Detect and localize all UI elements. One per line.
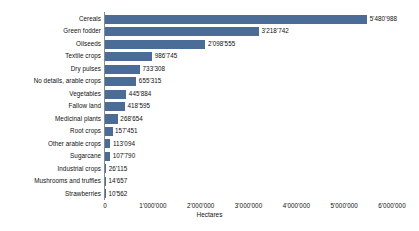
- bar-category-label: Green fodder: [0, 25, 101, 38]
- bar: [105, 102, 125, 111]
- bar-category-label: Other arable crops: [0, 138, 101, 151]
- bar: [105, 27, 259, 36]
- bar-category-label: Oilseeds: [0, 38, 101, 51]
- bar: [105, 139, 110, 148]
- bar-row: Other arable crops113'094: [0, 138, 419, 151]
- bar-fill: [105, 139, 110, 148]
- bar: [105, 127, 113, 136]
- bar-row: Vegetables445'884: [0, 88, 419, 101]
- bar-category-label: Industrial crops: [0, 163, 101, 176]
- bar: [105, 52, 152, 61]
- bar: [105, 177, 106, 186]
- bar-row: Mushrooms and truffles14'657: [0, 175, 419, 188]
- bar-fill: [105, 102, 125, 111]
- bar-row: Sugarcane107'790: [0, 150, 419, 163]
- bar-category-label: Medicinal plants: [0, 113, 101, 126]
- bar-fill: [105, 127, 113, 136]
- bar-row: Root crops157'451: [0, 125, 419, 138]
- bar-category-label: Dry pulses: [0, 63, 101, 76]
- bar-value-label: 113'094: [113, 138, 135, 151]
- bar-fill: [105, 90, 126, 99]
- bar-row: Green fodder3'218'742: [0, 25, 419, 38]
- bar-chart: Cereals5'480'988Green fodder3'218'742Oil…: [0, 0, 419, 231]
- bar-value-label: 107'790: [113, 150, 136, 163]
- bar-value-label: 445'884: [129, 88, 152, 101]
- bar-value-label: 157'451: [115, 125, 138, 138]
- bar-row: Textile crops986'745: [0, 50, 419, 63]
- bar-value-label: 26'115: [109, 163, 128, 176]
- bar: [105, 40, 205, 49]
- bar-fill: [105, 164, 106, 173]
- bar-category-label: Root crops: [0, 125, 101, 138]
- plot-area: Cereals5'480'988Green fodder3'218'742Oil…: [0, 0, 419, 231]
- bar-value-label: 418'595: [128, 100, 151, 113]
- bar-value-label: 5'480'988: [370, 13, 397, 26]
- bar-row: Dry pulses733'308: [0, 63, 419, 76]
- bar-category-label: Strawberries: [0, 188, 101, 201]
- bar-fill: [105, 65, 140, 74]
- bar-value-label: 2'098'555: [208, 38, 235, 51]
- bar-fill: [105, 15, 367, 24]
- bar-fill: [105, 27, 259, 36]
- bar-fill: [105, 77, 136, 86]
- bar-category-label: Mushrooms and truffles: [0, 175, 101, 188]
- bar-category-label: No details, arable crops: [0, 75, 101, 88]
- bar-category-label: Sugarcane: [0, 150, 101, 163]
- bar-fill: [105, 177, 106, 186]
- bar-fill: [105, 40, 205, 49]
- bar: [105, 77, 136, 86]
- bar-fill: [105, 152, 110, 161]
- bar-value-label: 10'562: [108, 188, 127, 201]
- bar: [105, 15, 367, 24]
- bar-fill: [105, 189, 106, 198]
- x-axis-title: Hectares: [0, 210, 419, 220]
- bar-category-label: Vegetables: [0, 88, 101, 101]
- bar-value-label: 14'657: [108, 175, 127, 188]
- bar: [105, 114, 118, 123]
- bar-row: Fallow land418'595: [0, 100, 419, 113]
- bar-row: Cereals5'480'988: [0, 13, 419, 26]
- bar-category-label: Fallow land: [0, 100, 101, 113]
- bar: [105, 189, 106, 198]
- bar-value-label: 3'218'742: [261, 25, 288, 38]
- bar-value-label: 268'654: [120, 113, 143, 126]
- bar: [105, 164, 106, 173]
- bar-value-label: 655'315: [139, 75, 162, 88]
- bar-value-label: 986'745: [155, 50, 178, 63]
- bar-row: Strawberries10'562: [0, 188, 419, 201]
- bar: [105, 152, 110, 161]
- bar-row: Medicinal plants268'654: [0, 113, 419, 126]
- bar-value-label: 733'308: [143, 63, 166, 76]
- bar-row: Oilseeds2'098'555: [0, 38, 419, 51]
- bar-fill: [105, 52, 152, 61]
- bar-category-label: Cereals: [0, 13, 101, 26]
- bar-row: Industrial crops26'115: [0, 163, 419, 176]
- bar: [105, 90, 126, 99]
- bar: [105, 65, 140, 74]
- bar-row: No details, arable crops655'315: [0, 75, 419, 88]
- bar-category-label: Textile crops: [0, 50, 101, 63]
- bar-fill: [105, 114, 118, 123]
